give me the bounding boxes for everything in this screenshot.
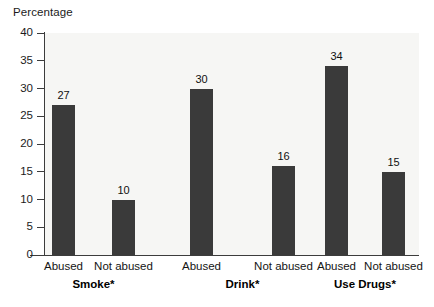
x-category-label: Abused	[164, 260, 239, 273]
bar	[190, 89, 213, 256]
x-category-label: Not abused	[86, 260, 161, 273]
bar-value-label: 34	[315, 51, 358, 62]
y-tick-mark	[37, 88, 44, 89]
x-category-label: Not abused	[356, 260, 431, 273]
y-tick-mark	[37, 199, 44, 200]
y-tick-label: 30	[9, 83, 33, 95]
bar	[325, 66, 348, 255]
y-tick-label: 40	[9, 27, 33, 39]
bar-chart: Percentage 4035302520151050 271030163415…	[0, 0, 434, 307]
y-tick-mark	[37, 144, 44, 145]
y-tick-mark	[37, 171, 44, 172]
y-tick-label: 10	[9, 194, 33, 206]
bar	[272, 166, 295, 255]
y-tick-label: 25	[9, 110, 33, 122]
bar-value-label: 16	[262, 151, 305, 162]
y-tick-mark	[37, 227, 44, 228]
y-tick-label: 35	[9, 55, 33, 67]
plot-area	[45, 33, 419, 255]
bar-value-label: 27	[42, 90, 85, 101]
y-tick-mark	[37, 33, 44, 34]
y-tick-label: 5	[9, 221, 33, 233]
x-group-label: Use Drugs*	[295, 278, 434, 291]
bar-value-label: 15	[372, 157, 415, 168]
x-axis-line	[30, 255, 419, 256]
y-tick-mark	[37, 60, 44, 61]
y-tick-mark	[37, 255, 44, 256]
bar	[112, 200, 135, 256]
bar	[382, 172, 405, 255]
y-axis-line	[44, 32, 45, 256]
bar-value-label: 10	[102, 185, 145, 196]
y-tick-label: 0	[9, 249, 33, 261]
y-tick-label: 15	[9, 166, 33, 178]
y-tick-label: 20	[9, 138, 33, 150]
y-axis-title: Percentage	[13, 6, 73, 18]
x-group-label: Smoke*	[24, 278, 164, 291]
x-group-label: Drink*	[173, 278, 313, 291]
y-tick-mark	[37, 116, 44, 117]
bar	[52, 105, 75, 255]
bar-value-label: 30	[180, 74, 223, 85]
